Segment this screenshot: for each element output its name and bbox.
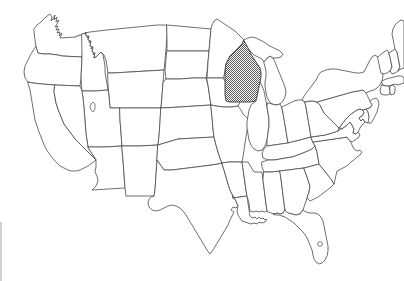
state-michigan-lower[interactable]: Michigan bbox=[264, 56, 286, 105]
state-nebraska[interactable]: Nebraska bbox=[161, 78, 211, 108]
state-new-mexico[interactable]: New Mexico bbox=[122, 145, 158, 196]
state-massachusetts[interactable]: Massachusetts bbox=[382, 76, 404, 86]
state-wyoming[interactable]: Wyoming bbox=[108, 70, 164, 108]
lake-okeechobee bbox=[318, 242, 323, 247]
state-texas[interactable]: Texas bbox=[148, 160, 238, 254]
state-rhode-island[interactable]: Rhode Island bbox=[390, 85, 395, 95]
state-georgia[interactable]: Georgia bbox=[280, 168, 310, 215]
state-new-york[interactable]: New York bbox=[302, 55, 383, 102]
state-north-dakota[interactable]: North Dakota bbox=[167, 25, 211, 51]
state-south-dakota[interactable]: South Dakota bbox=[165, 51, 209, 79]
us-map-figure: Washington Oregon California Idaho Monta… bbox=[0, 0, 404, 281]
states-layer: Washington Oregon California Idaho Monta… bbox=[24, 14, 404, 264]
state-washington[interactable]: Washington bbox=[34, 14, 85, 57]
us-map-svg: Washington Oregon California Idaho Monta… bbox=[0, 0, 404, 281]
state-connecticut[interactable]: Connecticut bbox=[380, 85, 390, 95]
state-arizona[interactable]: Arizona bbox=[88, 146, 125, 190]
scan-edge-streak bbox=[0, 222, 2, 281]
state-florida[interactable]: Florida bbox=[273, 210, 328, 264]
state-colorado[interactable]: Colorado bbox=[120, 108, 161, 146]
